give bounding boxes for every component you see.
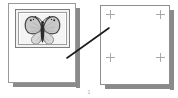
figure-caption: 1 xyxy=(0,88,178,96)
figure-root: 1 xyxy=(0,0,178,98)
pointer-line-segment xyxy=(67,28,109,58)
pointer-line xyxy=(0,0,178,98)
